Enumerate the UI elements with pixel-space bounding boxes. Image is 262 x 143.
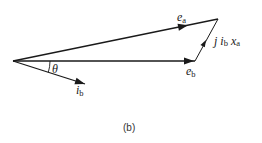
label-e-a-sub: a bbox=[182, 15, 186, 25]
arrowhead-j-ib-xa bbox=[200, 39, 208, 48]
label-e-a: ea bbox=[177, 10, 186, 25]
label-i-b-sub: b bbox=[79, 88, 83, 98]
label-j-ib-xa: jibxa bbox=[212, 34, 240, 48]
figure-caption: (b) bbox=[123, 122, 135, 133]
vector-i-b bbox=[13, 61, 85, 84]
label-e-b: eb bbox=[186, 64, 196, 79]
label-theta: θ bbox=[52, 62, 58, 76]
label-j: j bbox=[212, 34, 218, 48]
label-x-sub: a bbox=[236, 38, 240, 48]
label-i-b: ib bbox=[76, 83, 84, 98]
label-e-b-sub: b bbox=[191, 69, 195, 79]
label-i-sub: b bbox=[224, 38, 228, 48]
phasor-diagram: θ ea eb ib jibxa (b) bbox=[0, 0, 262, 143]
angle-arc-theta bbox=[48, 61, 50, 72]
